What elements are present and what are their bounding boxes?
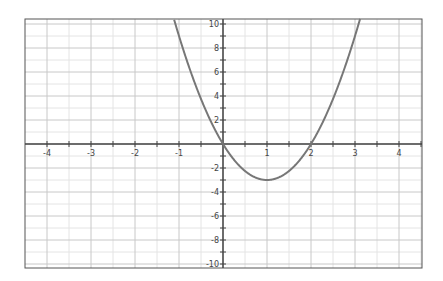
x-tick-label: -3 bbox=[87, 149, 95, 158]
x-tick-label: -4 bbox=[43, 149, 51, 158]
x-tick-label: 2 bbox=[308, 149, 313, 158]
x-tick-label: -2 bbox=[131, 149, 139, 158]
y-tick-label: -4 bbox=[211, 188, 219, 197]
function-plot: -4-3-2-11234-10-8-6-4-2246810 bbox=[0, 0, 443, 281]
y-tick-label: 8 bbox=[214, 44, 219, 53]
y-tick-label: -6 bbox=[211, 212, 219, 221]
y-tick-label: 2 bbox=[214, 116, 219, 125]
x-tick-label: 4 bbox=[396, 149, 401, 158]
y-tick-label: 10 bbox=[209, 20, 219, 29]
x-tick-label: 1 bbox=[264, 149, 269, 158]
x-tick-label: 3 bbox=[352, 149, 357, 158]
x-tick-label: -1 bbox=[175, 149, 183, 158]
y-tick-label: 6 bbox=[214, 68, 219, 77]
y-tick-label: -10 bbox=[206, 260, 219, 269]
y-tick-label: 4 bbox=[214, 92, 219, 101]
y-tick-label: -2 bbox=[211, 164, 219, 173]
y-tick-label: -8 bbox=[211, 236, 219, 245]
